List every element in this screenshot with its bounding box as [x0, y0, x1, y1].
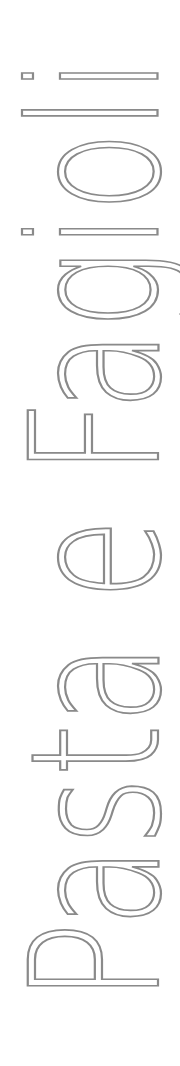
spine-title-graphic: Pasta e Fagioli: [0, 0, 180, 1066]
book-spine: Pasta e Fagioli: [0, 0, 180, 1066]
spine-title: Pasta e Fagioli: [0, 57, 180, 1002]
